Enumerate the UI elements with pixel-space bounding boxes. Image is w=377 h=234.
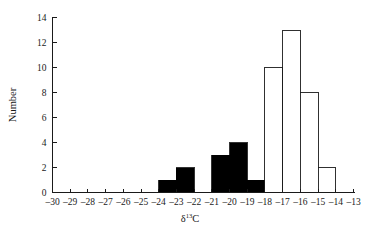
y-tick-label: 4 [42,138,47,148]
x-tick-label: –13 [345,197,361,207]
y-tick-label: 14 [37,13,47,23]
x-tick-label: –18 [257,197,273,207]
y-tick-label: 10 [37,63,47,73]
x-tick-label: –24 [151,197,167,207]
x-tick-label: –30 [44,197,60,207]
x-tick-label: –22 [186,197,202,207]
chart-canvas: 02468101214 –30–29–28–27–26–25–24–23–22–… [0,0,377,234]
x-tick-label: –17 [275,197,291,207]
histogram-bar [159,180,177,193]
x-tick-label: –25 [133,197,149,207]
x-tick-label: –28 [80,197,96,207]
histogram-bar [230,143,248,193]
x-tick-label: –23 [168,197,184,207]
histogram-bar [176,168,194,193]
histogram-bar [265,68,283,193]
x-tick-label: –14 [328,197,344,207]
x-tick-label: –19 [239,197,255,207]
x-tick-label: –20 [221,197,237,207]
histogram-bar [318,168,336,193]
y-axis-title-group: Number [7,87,18,122]
x-tick-label: –21 [204,197,220,207]
histogram-bar [283,30,301,193]
histogram-bar [300,93,318,193]
y-tick-label: 2 [42,163,47,173]
y-tick-label: 12 [37,38,47,48]
histogram-figure: 02468101214 –30–29–28–27–26–25–24–23–22–… [0,0,377,234]
y-axis-title: Number [7,87,18,122]
histogram-bar [212,155,230,193]
histogram-bar [247,180,265,193]
y-tick-label: 8 [42,88,47,98]
x-tick-label: –15 [310,197,326,207]
x-tick-label: –27 [97,197,113,207]
y-tick-label: 6 [42,113,47,123]
x-tick-label: –29 [62,197,78,207]
x-axis-title-element: C [192,213,199,224]
x-tick-label: –26 [115,197,131,207]
x-tick-label: –16 [292,197,308,207]
